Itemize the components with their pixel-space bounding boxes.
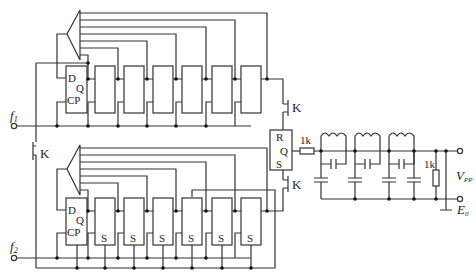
output-filter: 1k 1k E0 <box>292 133 473 218</box>
top-stage-3 <box>124 66 144 113</box>
series-resistor-label: 1k <box>300 134 312 146</box>
output-terminal-bottom <box>457 196 462 201</box>
rs-flipflop: R Q S <box>270 130 292 170</box>
load-resistor-label: 1k <box>424 158 436 170</box>
top-stage-2 <box>95 66 115 113</box>
pin-cp-label: CP <box>67 226 80 238</box>
output-terminal-top <box>457 148 462 153</box>
left-switch: K <box>33 63 50 268</box>
switch-k-top-label: K <box>292 100 302 115</box>
stage-s-label: S <box>130 232 136 244</box>
rs-s-label: S <box>276 158 282 170</box>
bottom-register: D Q CP S S S S S S f2 <box>10 145 302 270</box>
top-stage-6 <box>212 66 232 113</box>
rs-r-label: R <box>276 131 284 143</box>
top-stage-4 <box>153 66 173 113</box>
stage-s-label: S <box>188 232 194 244</box>
bottom-selector-icon <box>67 145 80 195</box>
pin-d-label: D <box>68 204 76 216</box>
circuit-diagram: D Q CP f1 K <box>0 0 476 280</box>
rs-q-label: Q <box>280 145 288 157</box>
load-resistor <box>433 170 439 186</box>
switch-k-bottom-label: K <box>292 177 302 192</box>
pin-d-label: D <box>68 72 76 84</box>
series-resistor <box>300 148 314 154</box>
top-stage-5 <box>182 66 202 113</box>
stage-s-label: S <box>159 232 165 244</box>
output-voltage-label: VPP <box>456 168 473 184</box>
schematic-canvas: D Q CP f1 K <box>0 0 476 280</box>
stage-s-label: S <box>247 232 253 244</box>
input-terminal-f2 <box>11 255 16 260</box>
top-stage-7 <box>241 66 261 113</box>
top-register: D Q CP f1 K <box>10 10 302 130</box>
stage-s-label: S <box>218 232 224 244</box>
input-terminal-f1 <box>11 123 16 128</box>
top-selector-icon <box>67 10 80 60</box>
stage-s-label: S <box>101 232 107 244</box>
pin-q-label: Q <box>76 214 84 226</box>
input-label-f1: f1 <box>10 108 18 124</box>
switch-k-left-label: K <box>40 146 50 161</box>
input-label-f2: f2 <box>10 239 18 255</box>
pin-cp-label: CP <box>67 94 80 106</box>
ground-label: E0 <box>456 202 469 218</box>
pin-q-label: Q <box>76 82 84 94</box>
